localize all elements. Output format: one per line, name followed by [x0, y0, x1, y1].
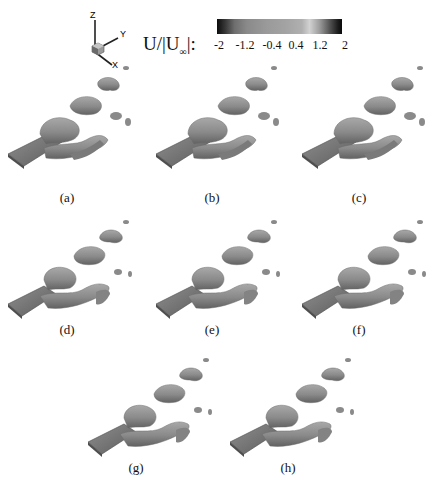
panel-d	[0, 212, 150, 332]
panel-caption: (d)	[59, 322, 74, 338]
vortex-isosurface-plot	[148, 212, 298, 332]
colorbar-label-subscript: ∞	[180, 46, 187, 57]
panel-caption: (c)	[352, 190, 366, 206]
panel-e	[148, 212, 298, 332]
z-axis-label: Z	[90, 10, 96, 20]
colorbar-tick: -1.2	[236, 38, 255, 53]
colorbar-label-main: U/|U	[143, 33, 180, 54]
panel-b	[148, 62, 298, 182]
panel-h	[222, 350, 372, 470]
colorbar-label: U/|U∞|:	[143, 33, 196, 57]
colorbar	[217, 19, 342, 34]
vortex-isosurface-plot	[294, 212, 444, 332]
vortex-isosurface-plot	[148, 62, 298, 182]
panel-caption: (b)	[204, 190, 219, 206]
vortex-isosurface-plot	[0, 212, 150, 332]
panel-g	[80, 350, 230, 470]
vortex-isosurface-plot	[0, 62, 150, 182]
colorbar-ticks: -2 -1.2 -0.4 0.4 1.2 2	[213, 38, 353, 54]
panel-caption: (a)	[60, 190, 74, 206]
panel-caption: (f)	[353, 322, 366, 338]
colorbar-label-end: |:	[187, 33, 196, 54]
colorbar-tick: 2	[342, 38, 348, 53]
panel-f	[294, 212, 444, 332]
panel-c	[294, 62, 444, 182]
panel-caption: (h)	[280, 460, 295, 476]
y-axis-label: Y	[120, 29, 126, 39]
axes-triad-icon: Z Y X	[78, 8, 138, 68]
panel-a	[0, 62, 150, 182]
vortex-isosurface-plot	[80, 350, 230, 470]
colorbar-tick: 0.4	[289, 38, 304, 53]
axes-triad: Z Y X	[78, 8, 138, 68]
panel-caption: (g)	[128, 460, 143, 476]
colorbar-tick: -0.4	[263, 38, 282, 53]
vortex-isosurface-plot	[294, 62, 444, 182]
colorbar-tick: 1.2	[313, 38, 328, 53]
panel-caption: (e)	[205, 322, 219, 338]
colorbar-tick: -2	[214, 38, 224, 53]
vortex-isosurface-plot	[222, 350, 372, 470]
